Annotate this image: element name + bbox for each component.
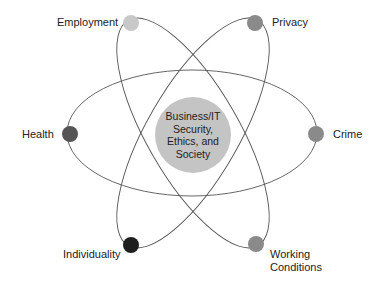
node-crime <box>308 126 324 142</box>
label-health: Health <box>22 128 54 141</box>
label-conditions: Conditions <box>270 261 322 274</box>
center-line-3: Ethics, and <box>153 135 233 148</box>
center-line-2: Security, <box>153 123 233 136</box>
label-crime: Crime <box>333 128 362 141</box>
node-privacy <box>247 15 263 31</box>
node-individuality <box>123 237 139 253</box>
center-line-1: Business/IT <box>153 110 233 123</box>
center-label: Business/IT Security, Ethics, and Societ… <box>153 110 233 160</box>
label-individuality: Individuality <box>63 248 120 261</box>
center-line-4: Society <box>153 148 233 161</box>
label-privacy: Privacy <box>272 16 308 29</box>
label-working: Working <box>270 248 322 261</box>
node-health <box>62 126 78 142</box>
label-employment: Employment <box>57 16 118 29</box>
node-employment <box>123 15 139 31</box>
label-working-conditions: Working Conditions <box>270 248 322 274</box>
node-working-conditions <box>248 236 264 252</box>
